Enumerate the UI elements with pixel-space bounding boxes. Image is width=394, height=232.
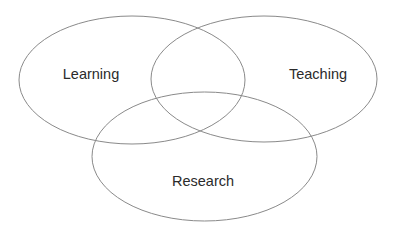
research-set-ellipse: [92, 92, 317, 221]
venn-diagram: Learning Teaching Research: [0, 0, 394, 232]
research-label: Research: [172, 173, 234, 189]
teaching-label: Teaching: [289, 66, 347, 82]
learning-label: Learning: [63, 66, 119, 82]
learning-set-ellipse: [19, 16, 245, 144]
